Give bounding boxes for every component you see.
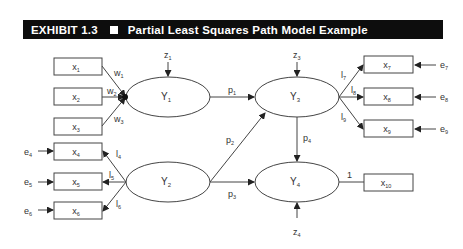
label-loading-1: 1 [347,170,352,180]
label-e8: e8 [440,92,448,103]
label-e5: e5 [24,177,32,188]
label-z4: z4 [293,227,301,238]
label-x5: x5 [72,177,80,188]
label-e9: e9 [440,124,448,135]
label-x6: x6 [72,206,80,217]
label-l4: l4 [116,149,121,160]
label-l8: l8 [351,85,356,96]
label-p2: p2 [226,135,234,146]
pls-path-diagram: x1 x2 x3 x4 x5 x6 x7 x8 x9 x10 Y1 Y2 Y3 … [0,0,463,249]
label-x4: x4 [72,147,80,158]
label-p1: p1 [228,85,236,96]
label-x2: x2 [72,92,80,103]
label-w3: w3 [113,114,124,125]
label-e6: e6 [24,206,32,217]
label-Y4: Y4 [290,176,301,188]
label-l7: l7 [341,70,346,81]
label-Y1: Y1 [161,91,172,103]
label-l9: l9 [341,112,346,123]
label-p3: p3 [228,189,236,200]
label-l6: l6 [116,199,121,210]
label-e7: e7 [440,60,448,71]
label-p4: p4 [303,133,311,144]
label-e4: e4 [24,147,32,158]
label-x1: x1 [72,62,80,73]
label-z3: z3 [293,50,301,61]
label-x7: x7 [383,60,391,71]
label-x3: x3 [72,122,80,133]
label-w2: w2 [106,86,117,97]
label-w1: w1 [113,68,124,79]
label-z1: z1 [164,50,172,61]
label-l5: l5 [109,170,114,181]
weight-junction [122,94,128,100]
label-x8: x8 [383,92,391,103]
label-Y3: Y3 [290,91,301,103]
label-Y2: Y2 [161,176,172,188]
label-x10: x10 [381,178,392,189]
label-x9: x9 [383,124,391,135]
